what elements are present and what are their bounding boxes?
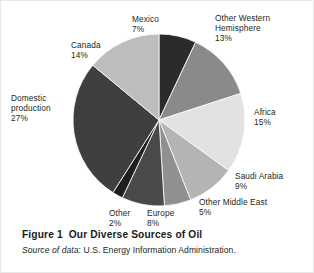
pie-label-other-middle-east: Other Middle East 5% — [199, 197, 267, 217]
pie-label-europe: Europe 8% — [147, 208, 174, 228]
pie-label-other: Other 2% — [109, 208, 130, 228]
figure-container: Mexico 7% Other Western Hemisphere 13% A… — [0, 0, 314, 273]
source-rest-text: : U.S. Energy Information Administration… — [79, 245, 236, 255]
pie-label-saudi-arabia: Saudi Arabia 9% — [235, 171, 283, 191]
figure-caption: Figure 1 Our Diverse Sources of Oil — [22, 229, 302, 240]
pie-label-canada: Canada 14% — [71, 40, 101, 60]
pie-label-domestic-production: Domestic production 27% — [11, 93, 51, 124]
figure-source: Source of data: U.S. Energy Information … — [22, 245, 302, 255]
pie-label-other-western-hemisphere: Other Western Hemisphere 13% — [215, 13, 270, 44]
figure-caption-block: Figure 1 Our Diverse Sources of Oil Sour… — [22, 229, 302, 255]
pie-chart: Mexico 7% Other Western Hemisphere 13% A… — [1, 1, 314, 227]
pie-label-mexico: Mexico 7% — [132, 14, 159, 34]
pie-label-africa: Africa 15% — [254, 107, 276, 127]
source-lead-text: Source of data — [22, 245, 79, 255]
